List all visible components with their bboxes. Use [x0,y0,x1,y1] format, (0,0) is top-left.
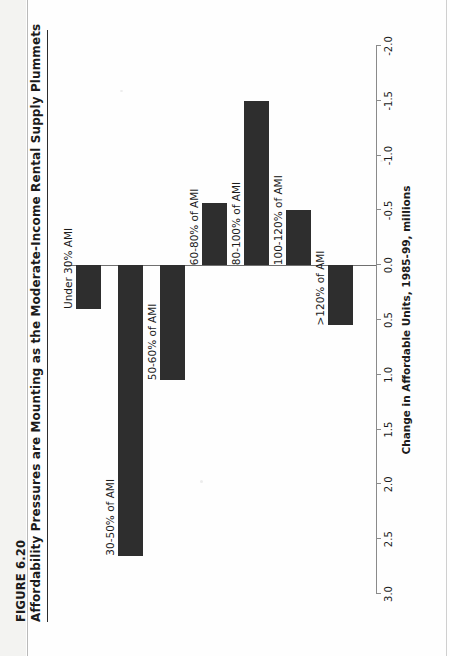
bar-category-label: >120% of AMI [314,251,326,326]
bar [286,210,311,265]
bar [160,265,185,380]
bar [328,265,353,325]
axis-tick-label: 2.0 [383,476,394,492]
value-axis-line [376,46,377,594]
bar-category-label: 100-120% of AMI [272,175,284,265]
bar-category-label: 30-50% of AMI [104,479,116,556]
bar-category-label: 50-60% of AMI [146,304,158,381]
axis-tick [376,593,381,594]
axis-tick-label: 3.0 [383,586,394,602]
axis-tick-label: -0.5 [383,201,394,221]
axis-tick [376,209,381,210]
axis-tick-label: 2.5 [383,531,394,547]
axis-tick [376,264,381,265]
axis-tick-label: -1.5 [383,91,394,111]
figure-container: FIGURE 6.20 Affordability Pressures are … [0,0,450,656]
axis-tick [376,538,381,539]
bar [202,203,227,265]
scanned-page: FIGURE 6.20 Affordability Pressures are … [0,0,450,656]
axis-tick-label: -2.0 [383,36,394,56]
bar-chart-plot-area: Under 30% AMI30-50% of AMI50-60% of AMI6… [64,46,404,594]
axis-tick [376,319,381,320]
axis-tick-label: 0.0 [383,257,394,273]
bar [76,265,101,309]
axis-tick-label: 0.5 [383,312,394,328]
axis-title: Change in Affordable Units, 1985-99, mil… [400,46,412,594]
axis-tick [376,45,381,46]
figure-title: Affordability Pressures are Mounting as … [29,24,43,622]
axis-tick [376,155,381,156]
axis-tick [376,483,381,484]
axis-tick-label: 1.5 [383,422,394,438]
bar [118,265,143,555]
axis-tick [376,100,381,101]
bar-category-label: 80-100% of AMI [230,182,242,265]
axis-tick [376,429,381,430]
axis-tick-label: 1.0 [383,367,394,383]
bar-category-label: Under 30% AMI [62,228,74,309]
title-divider [47,30,48,622]
bar [244,101,269,265]
bar-category-label: 60-80% of AMI [188,189,200,266]
axis-tick-label: -1.0 [383,146,394,166]
axis-tick [376,374,381,375]
figure-number: FIGURE 6.20 [14,540,28,622]
